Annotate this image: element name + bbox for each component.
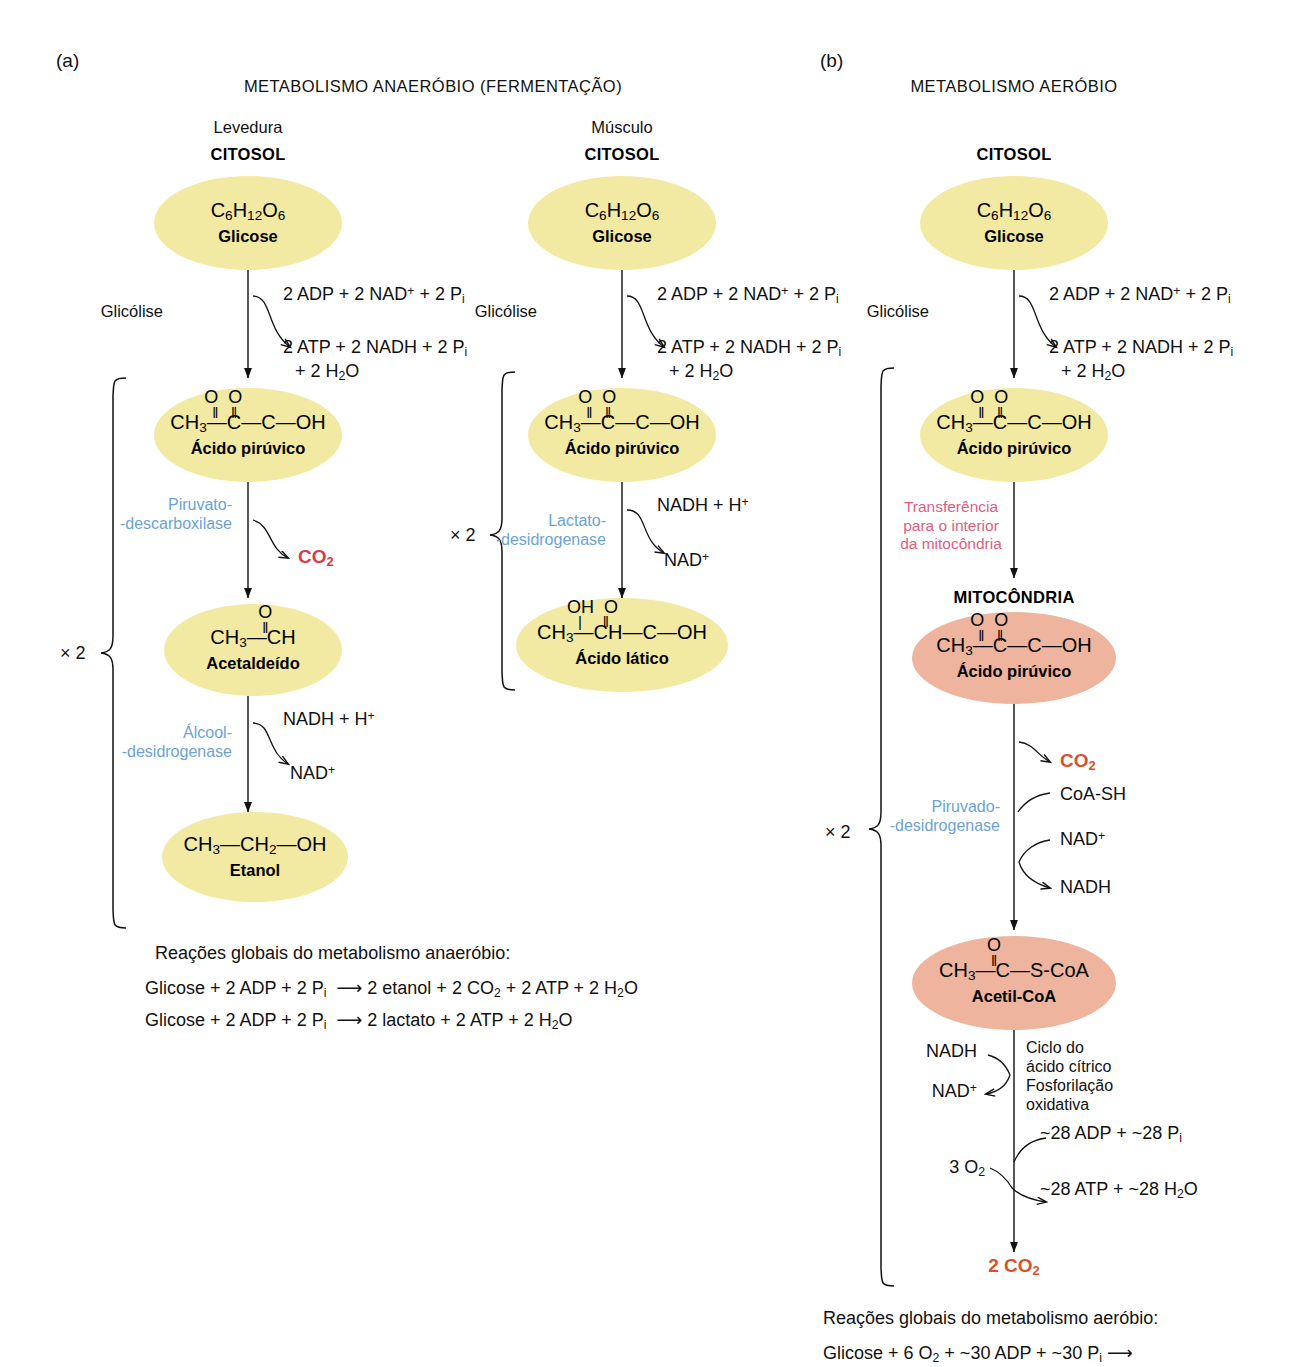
node-acetaldeido: O ‖ CH3—CH Acetaldeído <box>164 604 342 696</box>
product-atp-h2o-oxphos: ~28 ATP + ~28 H2O <box>1040 1178 1198 1202</box>
summary-line-etanol: Glicose + 2 ADP + 2 Pi ⟶ 2 etanol + 2 CO… <box>145 977 638 1000</box>
node-label: Glicose <box>984 227 1044 246</box>
product-final-co2: 2 CO2 <box>988 1255 1040 1278</box>
panel-a-title: METABOLISMO ANAERÓBIO (FERMENTAÇÃO) <box>244 77 622 96</box>
cofactor-out-alcool: NAD+ <box>290 762 335 785</box>
step-out-glicolise-musculo: 2 ATP + 2 NADH + 2 Pi+ 2 H2O <box>657 336 841 385</box>
node-label: Glicose <box>218 227 278 246</box>
node-label: Acetil-CoA <box>972 987 1056 1006</box>
enzyme-piruvado-desidrogenase: Piruvado- -desidrogenase <box>890 798 1000 836</box>
node-acido-piruvico-levedura: O O ‖ ‖ CH3—C—C—OH Ácido pirúvico <box>154 388 342 482</box>
substrate-nad-plus: NAD+ <box>1060 828 1105 851</box>
multiplier-aerobio: × 2 <box>825 822 851 843</box>
node-label: Ácido pirúvico <box>191 439 306 458</box>
compartment-citosol-musculo: CITOSOL <box>584 145 659 164</box>
node-label: Ácido pirúvico <box>957 662 1072 681</box>
enzyme-alcool-desidrogenase: Álcool- -desidrogenase <box>122 724 232 762</box>
cofactor-nadh-cycle: NADH <box>926 1040 977 1063</box>
substrate-adp-pi-oxphos: ~28 ADP + ~28 Pi <box>1040 1122 1182 1146</box>
node-formula: O O ‖ ‖ CH3—C—C—OH <box>936 635 1091 659</box>
product-co2-levedura: CO2 <box>298 546 334 569</box>
step-out-glicolise-aerobio: 2 ATP + 2 NADH + 2 Pi+ 2 H2O <box>1049 336 1233 385</box>
node-acido-piruvico-citosol: O O ‖ ‖ CH3—C—C—OH Ácido pirúvico <box>920 388 1108 482</box>
multiplier-musculo: × 2 <box>450 525 476 546</box>
cofactor-in-lactato: NADH + H+ <box>657 494 749 517</box>
panel-a-tag: (a) <box>56 50 79 72</box>
node-label: Acetaldeído <box>206 654 300 673</box>
summary-heading-anaerobio: Reações globais do metabolismo anaeróbio… <box>155 943 510 964</box>
node-formula: O O ‖ ‖ CH3—C—C—OH <box>544 412 699 436</box>
step-label-glicolise-musculo: Glicólise <box>475 302 537 321</box>
step-label-glicolise-levedura: Glicólise <box>101 302 163 321</box>
node-label: Ácido pirúvico <box>957 439 1072 458</box>
step-in-glicolise-musculo: 2 ADP + 2 NAD+ + 2 Pi <box>657 283 839 307</box>
summary-line-aerobio: Glicose + 6 O2 + ~30 ADP + ~30 Pi ⟶ <box>823 1342 1133 1365</box>
node-label: Glicose <box>592 227 652 246</box>
node-acido-piruvico-mitocondria: O O ‖ ‖ CH3—C—C—OH Ácido pirúvico <box>912 612 1116 704</box>
compartment-mitocondria: MITOCÔNDRIA <box>953 588 1074 607</box>
node-formula: C6H12O6 <box>977 200 1052 224</box>
node-glicose-musculo: C6H12O6 Glicose <box>528 176 716 270</box>
substrate-o2: 3 O2 <box>949 1156 985 1180</box>
step-out-glicolise-levedura: 2 ATP + 2 NADH + 2 Pi+ 2 H2O <box>283 336 467 385</box>
branch-label-musculo: Músculo <box>591 118 652 137</box>
node-formula: O O ‖ ‖ CH3—C—C—OH <box>936 412 1091 436</box>
node-formula: O ‖ CH3—CH <box>210 627 295 651</box>
node-acido-latico: OH O | ‖ CH3—CH—C—OH Ácido lático <box>516 598 728 692</box>
substrate-coash: CoA-SH <box>1060 783 1126 806</box>
node-label: Etanol <box>230 861 280 880</box>
compartment-citosol-aerobio: CITOSOL <box>976 145 1051 164</box>
enzyme-piruvato-descarboxilase: Piruvato- -descarboxilase <box>120 496 232 534</box>
step-in-glicolise-aerobio: 2 ADP + 2 NAD+ + 2 Pi <box>1049 283 1231 307</box>
node-glicose-aerobio: C6H12O6 Glicose <box>920 176 1108 270</box>
panel-b-tag: (b) <box>820 50 843 72</box>
product-nadh: NADH <box>1060 876 1111 899</box>
node-formula: OH O | ‖ CH3—CH—C—OH <box>537 622 707 646</box>
multiplier-levedura: × 2 <box>60 643 86 664</box>
panel-b-title: METABOLISMO AERÓBIO <box>910 77 1117 96</box>
enzyme-lactato-desidrogenase: Lactato- -desidrogenase <box>496 512 606 550</box>
node-formula: C6H12O6 <box>585 200 660 224</box>
node-formula: C6H12O6 <box>211 200 286 224</box>
node-formula: CH3—CH2—OH <box>184 834 327 858</box>
node-acetil-coa: O ‖ CH3—C—S-CoA Acetil-CoA <box>912 936 1116 1030</box>
node-acido-piruvico-musculo: O O ‖ ‖ CH3—C—C—OH Ácido pirúvico <box>528 388 716 482</box>
summary-heading-aerobio: Reações globais do metabolismo aeróbio: <box>823 1308 1158 1329</box>
product-co2-piruvato-desidrogenase: CO2 <box>1060 750 1096 773</box>
node-glicose-levedura: C6H12O6 Glicose <box>154 176 342 270</box>
branch-label-levedura: Levedura <box>214 118 283 137</box>
cofactor-nad-cycle: NAD+ <box>932 1080 977 1103</box>
summary-line-lactato: Glicose + 2 ADP + 2 Pi ⟶ 2 lactato + 2 A… <box>145 1009 573 1032</box>
process-ciclo-acido-citrico: Ciclo do ácido cítrico <box>1026 1038 1111 1076</box>
compartment-citosol-levedura: CITOSOL <box>210 145 285 164</box>
node-formula: O ‖ CH3—C—S-CoA <box>939 960 1089 984</box>
process-fosforilacao-oxidativa: Fosforilação oxidativa <box>1026 1076 1113 1114</box>
cofactor-out-lactato: NAD+ <box>664 549 709 572</box>
node-etanol: CH3—CH2—OH Etanol <box>162 812 348 902</box>
node-label: Ácido lático <box>575 649 669 668</box>
cofactor-in-alcool: NADH + H+ <box>283 708 375 731</box>
step-in-glicolise-levedura: 2 ADP + 2 NAD+ + 2 Pi <box>283 283 465 307</box>
node-formula: O O ‖ ‖ CH3—C—C—OH <box>170 412 325 436</box>
node-label: Ácido pirúvico <box>565 439 680 458</box>
step-label-glicolise-aerobio: Glicólise <box>867 302 929 321</box>
transfer-mitocondria-note: Transferência para o interior da mitocôn… <box>900 498 1002 554</box>
